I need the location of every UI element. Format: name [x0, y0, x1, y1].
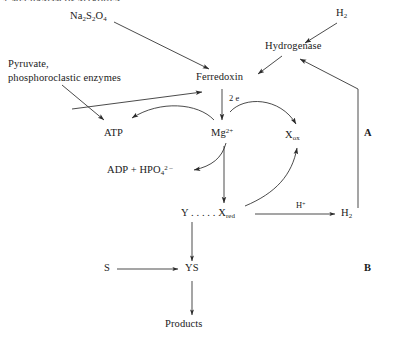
node-ys-label: YS — [185, 262, 199, 273]
node-h2-top-label: H2 — [336, 7, 347, 18]
edge-yxred-to-xox — [245, 148, 297, 206]
diagram-canvas: 3. MECHANISM OF NITROGEN — [0, 0, 400, 343]
edge-h2right-to-hydrogenase — [300, 59, 358, 208]
node-products-label: Products — [165, 318, 203, 329]
edge-hydrogenase-to-ferredoxin — [258, 56, 282, 74]
node-s: S — [104, 262, 110, 274]
node-atp-label: ATP — [104, 127, 123, 138]
hplus-label: H+ — [296, 200, 306, 210]
node-xox: Xox — [285, 129, 300, 142]
node-xox-label: Xox — [285, 129, 300, 140]
edge-pyruvate-to-atp — [62, 85, 104, 120]
node-pyruvate-line1: Pyruvate, — [8, 57, 121, 71]
node-yxred-label: Y . . . . . Xred — [181, 207, 235, 218]
node-products: Products — [165, 318, 203, 330]
node-na2s2o4-label: Na2S2O4 — [70, 10, 107, 21]
node-adp-label: ADP + HPO42 – — [107, 164, 173, 175]
edge-na2s2o4-to-ferredoxin — [114, 22, 209, 69]
panel-label-a: A — [364, 127, 372, 139]
edge-electrons-to-xox — [230, 102, 296, 124]
node-h2-right: H2 — [341, 207, 352, 220]
node-na2s2o4: Na2S2O4 — [70, 10, 107, 23]
node-yxred: Y . . . . . Xred — [181, 207, 235, 220]
node-h2-top: H2 — [336, 7, 347, 20]
diagram-connectors — [0, 0, 400, 343]
node-s-label: S — [104, 262, 110, 273]
node-mg-label: Mg2+ — [211, 127, 233, 138]
node-atp: ATP — [104, 127, 123, 139]
node-h2-right-label: H2 — [341, 207, 352, 218]
node-adp: ADP + HPO42 – — [107, 164, 173, 177]
node-hydrogenase-label: Hydrogenase — [265, 40, 322, 51]
two-electrons-label: 2 e — [229, 93, 239, 103]
node-mg: Mg2+ — [211, 127, 233, 139]
node-ferredoxin-label: Ferredoxin — [196, 71, 243, 82]
edge-label-hplus: H+ — [296, 200, 306, 210]
node-ferredoxin: Ferredoxin — [196, 71, 243, 83]
edge-label-two-electrons: 2 e — [229, 93, 239, 103]
node-pyruvate: Pyruvate, phosphoroclastic enzymes — [8, 57, 121, 84]
panel-label-b: B — [364, 262, 371, 274]
edge-mg-to-adp — [194, 143, 226, 170]
node-ys: YS — [185, 262, 199, 274]
node-pyruvate-line2: phosphoroclastic enzymes — [8, 71, 121, 85]
edge-mg-to-atp — [132, 106, 214, 120]
node-hydrogenase: Hydrogenase — [265, 40, 322, 52]
